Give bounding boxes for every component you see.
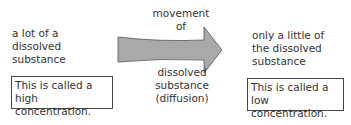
text-line: low concentration. <box>251 94 340 120</box>
text-line: the dissolved <box>252 42 324 55</box>
low-concentration-box: This is called a low concentration. <box>247 78 344 111</box>
text-line: movement <box>140 7 222 20</box>
text-line: substance <box>140 79 224 92</box>
text-line: of <box>140 20 222 33</box>
text-line: This is called a <box>15 79 109 92</box>
text-line: high concentration. <box>15 92 109 118</box>
text-line: (diffusion) <box>140 92 224 105</box>
text-line: dissolved <box>140 66 224 79</box>
text-line: substance <box>252 55 324 68</box>
text-line: only a little of <box>252 29 324 42</box>
text-line: dissolved <box>12 40 66 53</box>
text-line: a lot of a <box>12 27 66 40</box>
low-concentration-description: only a little of the dissolved substance <box>252 29 324 68</box>
high-concentration-box: This is called a high concentration. <box>11 76 113 109</box>
arrow-bottom-label: dissolved substance (diffusion) <box>140 66 224 105</box>
text-line: This is called a <box>251 81 340 94</box>
text-line: substance <box>12 53 66 66</box>
high-concentration-description: a lot of a dissolved substance <box>12 27 66 66</box>
arrow-top-label: movement of <box>140 7 222 33</box>
